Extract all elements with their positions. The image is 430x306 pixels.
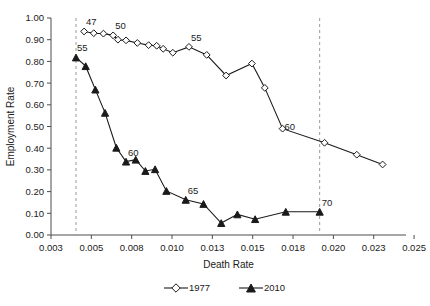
marker-1977 — [353, 151, 360, 158]
annotation-2010-55-4: 55 — [77, 42, 88, 53]
annotation-1977-55-2: 55 — [191, 32, 202, 43]
y-tick-label-1: 0.10 — [26, 208, 45, 219]
y-tick-label-9: 0.90 — [26, 34, 45, 45]
y-tick-label-5: 0.50 — [26, 121, 45, 132]
marker-1977 — [90, 30, 97, 37]
marker-1977 — [248, 60, 255, 67]
marker-1977 — [321, 139, 328, 146]
marker-1977 — [261, 84, 268, 91]
annotation-2010-60-5: 60 — [128, 147, 139, 158]
y-axis-title: Employment Rate — [5, 86, 16, 166]
x-tick-label-7: 0.020 — [321, 242, 345, 253]
marker-1977 — [145, 42, 152, 49]
x-tick-label-8: 0.023 — [362, 242, 386, 253]
x-tick-label-4: 0.013 — [200, 242, 224, 253]
x-axis-title: Death Rate — [203, 259, 254, 270]
x-tick-label-3: 0.010 — [160, 242, 184, 253]
marker-1977 — [160, 45, 167, 52]
employment-vs-death-rate-chart: 0.000.100.200.300.400.500.600.700.800.90… — [0, 0, 430, 306]
legend-label-1977: 1977 — [189, 282, 210, 293]
marker-1977 — [134, 40, 141, 47]
y-tick-label-0: 0.00 — [26, 229, 45, 240]
y-tick-label-10: 1.00 — [26, 12, 45, 23]
marker-2010 — [234, 211, 241, 218]
legend-label-2010: 2010 — [264, 282, 285, 293]
annotation-2010-70-7: 70 — [322, 197, 333, 208]
series-line-2010 — [76, 57, 320, 223]
x-tick-label-2: 0.008 — [120, 242, 144, 253]
y-tick-label-6: 0.60 — [26, 99, 45, 110]
marker-2010 — [113, 144, 120, 151]
marker-1977 — [81, 28, 88, 35]
marker-1977 — [169, 49, 176, 56]
annotation-1977-50-1: 50 — [115, 20, 126, 31]
series-line-1977 — [84, 31, 383, 164]
annotation-2010-65-6: 65 — [188, 185, 199, 196]
marker-2010 — [101, 109, 108, 116]
x-tick-label-6: 0.018 — [281, 242, 305, 253]
marker-1977 — [379, 161, 386, 168]
y-tick-label-7: 0.70 — [26, 78, 45, 89]
y-tick-label-8: 0.80 — [26, 56, 45, 67]
marker-1977 — [123, 37, 130, 44]
y-tick-label-4: 0.40 — [26, 143, 45, 154]
annotation-1977-60-3: 60 — [285, 121, 296, 132]
y-tick-label-3: 0.30 — [26, 164, 45, 175]
marker-2010 — [92, 86, 99, 93]
marker-1977 — [100, 30, 107, 37]
marker-2010 — [200, 201, 207, 208]
marker-2010 — [72, 54, 79, 61]
x-tick-label-5: 0.015 — [241, 242, 265, 253]
marker-1977 — [153, 42, 160, 49]
y-tick-label-2: 0.20 — [26, 186, 45, 197]
x-tick-label-1: 0.005 — [79, 242, 103, 253]
marker-2010 — [163, 188, 170, 195]
annotation-1977-47-0: 47 — [86, 16, 97, 27]
marker-2010 — [252, 216, 259, 223]
x-tick-label-9: 0.025 — [402, 242, 426, 253]
marker-2010 — [182, 196, 189, 203]
chart-figure: 0.000.100.200.300.400.500.600.700.800.90… — [0, 0, 430, 306]
x-tick-label-0: 0.003 — [39, 242, 63, 253]
marker-1977 — [186, 43, 193, 50]
legend-marker-1977 — [172, 284, 180, 292]
